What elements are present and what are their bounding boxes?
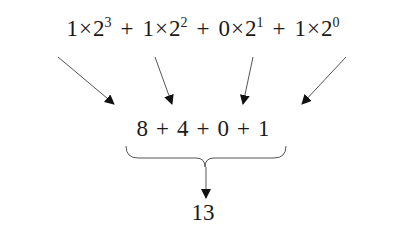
result-value: 13 bbox=[0, 200, 406, 226]
plus-sign: + bbox=[237, 116, 250, 142]
plus-sign: + bbox=[197, 116, 210, 142]
decimal-values-sum: 8+4+0+1 bbox=[0, 116, 406, 142]
arrow-term4-to-1 bbox=[302, 57, 346, 104]
value-8: 8 bbox=[137, 116, 149, 141]
arrow-term3-to-0 bbox=[243, 57, 253, 104]
plus-sign: + bbox=[156, 116, 169, 142]
value-0: 0 bbox=[217, 116, 229, 141]
value-4: 4 bbox=[177, 116, 189, 141]
curly-brace bbox=[126, 146, 286, 167]
arrow-term1-to-8 bbox=[58, 57, 114, 104]
arrow-term2-to-4 bbox=[155, 57, 172, 104]
value-1: 1 bbox=[258, 116, 270, 141]
